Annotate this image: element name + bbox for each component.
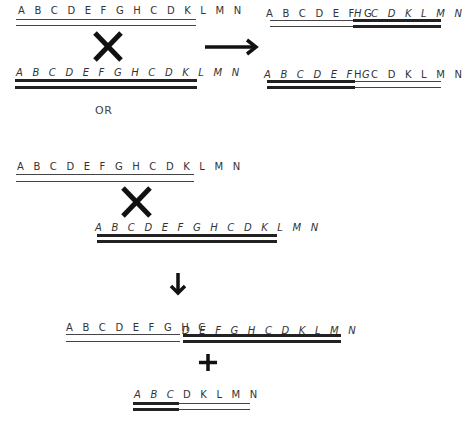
strand-label-italic: A B C bbox=[134, 389, 177, 400]
strand-line-thin bbox=[270, 26, 353, 27]
strand-line-thick bbox=[267, 86, 355, 89]
strand-label-italic: H C D K L M N bbox=[354, 8, 465, 19]
strand-line-thin bbox=[66, 341, 180, 342]
strand-line bbox=[16, 181, 194, 182]
strand-label: A B C D E F G H C D K L M N bbox=[17, 161, 243, 172]
strand-line bbox=[16, 25, 196, 26]
strand-line bbox=[15, 86, 197, 89]
plus-icon bbox=[199, 354, 217, 371]
strand-line-thick bbox=[133, 402, 179, 405]
strand-line bbox=[16, 174, 194, 175]
strand-line-thin bbox=[270, 20, 353, 21]
strand-line bbox=[97, 234, 277, 237]
strand-line-thin bbox=[355, 87, 441, 88]
strand-line-thick bbox=[183, 334, 341, 337]
strand-label-plain: D K L M N bbox=[183, 389, 260, 400]
strand-line-thin bbox=[179, 409, 250, 410]
strand-label: A B C D E F G H C D K L M N bbox=[16, 67, 242, 78]
strand-line-thin bbox=[66, 334, 180, 335]
strand-line-thick bbox=[133, 408, 179, 411]
strand-line bbox=[97, 240, 277, 243]
strand-line-thin bbox=[355, 81, 441, 82]
right-arrow-icon bbox=[205, 38, 261, 56]
or-separator: OR bbox=[95, 104, 112, 117]
strand-line-thick bbox=[353, 25, 441, 28]
down-arrow-icon bbox=[169, 273, 187, 296]
strand-line bbox=[15, 79, 197, 82]
strand-label: A B C D E F G H C D K L M N bbox=[95, 222, 321, 233]
strand-line-thin bbox=[179, 403, 250, 404]
crossover-x-icon bbox=[121, 186, 152, 218]
strand-line-thick bbox=[353, 19, 441, 22]
strand-line bbox=[16, 19, 196, 20]
strand-line-thick bbox=[267, 80, 355, 83]
crossover-x-icon bbox=[93, 31, 123, 62]
strand-line-thick bbox=[183, 340, 341, 343]
strand-label: A B C D E F G H C D K L M N bbox=[18, 5, 244, 16]
strand-label-plain: H C D K L M N bbox=[354, 69, 465, 80]
